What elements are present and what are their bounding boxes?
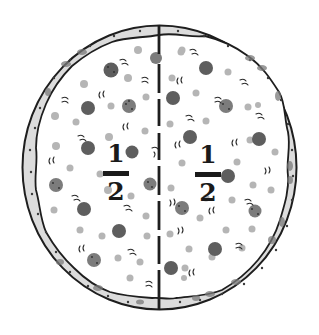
left-fraction-numerator: 1: [102, 142, 130, 166]
left-fraction-denominator: 2: [102, 180, 130, 204]
right-fraction-numerator: 1: [194, 143, 222, 167]
pizza-drawing: [0, 0, 319, 335]
right-half-fraction-label: 1 2: [194, 143, 222, 205]
right-fraction-denominator: 2: [194, 181, 222, 205]
right-fraction-bar: [195, 172, 221, 177]
pizza-illustration: 1 2 1 2: [0, 0, 319, 335]
left-fraction-bar: [103, 171, 129, 176]
left-half-fraction-label: 1 2: [102, 142, 130, 204]
